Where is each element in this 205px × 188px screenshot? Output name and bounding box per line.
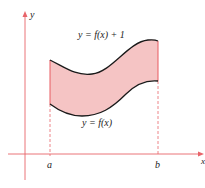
lower-curve-label: y = f(x) (81, 117, 113, 129)
tick-label-b: b (155, 159, 160, 170)
x-axis-label: x (200, 156, 205, 166)
shaded-region (50, 40, 158, 116)
area-between-curves-diagram: y x a b y = f(x) + 1 y = f(x) (0, 0, 205, 188)
y-axis-arrow-icon (23, 11, 28, 17)
tick-label-a: a (47, 159, 52, 170)
y-axis-label: y (29, 9, 35, 20)
upper-curve-label: y = f(x) + 1 (77, 29, 125, 41)
